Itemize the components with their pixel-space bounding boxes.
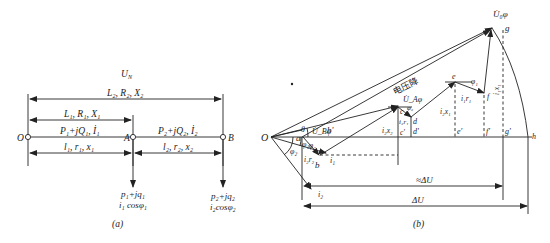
U0-label: U̇₀φ — [493, 9, 508, 19]
seg-i2r2-label: i₂r₂ — [304, 155, 315, 164]
point-d-prime-label: d' — [413, 127, 419, 136]
phi1-label-e: φ₁ — [471, 77, 478, 86]
node-B-label: B — [228, 133, 234, 143]
seg-i2x2-label: i₂x₂ — [382, 126, 393, 135]
load-A-power: p₁+jq₁ — [120, 189, 145, 199]
node-O — [25, 134, 30, 139]
segment-1-label: l₁, r₁, x₁ — [64, 142, 94, 152]
i2-label: i₂ — [318, 190, 323, 199]
flow-1-label: P₁+jQ₁, İ₁ — [59, 125, 100, 136]
load-B-current: i₂cosφ₂ — [210, 202, 236, 212]
load-B-power: p₂+jq₂ — [210, 191, 235, 201]
seg-i1x1-label: i₁x₁ — [492, 84, 501, 95]
approx-drop-label: ≈ΔU — [416, 175, 433, 185]
node-O-label: O — [17, 133, 24, 143]
node-A-label: A — [123, 133, 130, 143]
seg-i2r1-label: i₂r₁ — [399, 118, 409, 126]
theta-arc — [307, 128, 308, 137]
caption-b: (b) — [413, 219, 424, 230]
figure-a-labels: UN L₂, R₂, X₂ L₁, R₁, X₁ P₁+jQ₁, İ₁ P₂+j… — [17, 69, 236, 230]
UA-phasor — [271, 106, 398, 137]
seg-i1r1-label: i₁r₁ — [461, 94, 472, 103]
phi2-label-c: φ₂ — [407, 104, 414, 112]
vector-e-f — [455, 82, 484, 93]
vector-f-g — [484, 30, 491, 93]
stray-dot — [291, 83, 293, 85]
caption-a: (a) — [112, 219, 123, 230]
UA-label: U̇_Aφ — [403, 95, 423, 104]
voltage-drop-line — [302, 30, 490, 137]
point-f-label: f — [487, 92, 491, 101]
flow-2-label: P₂+jQ₂, İ₂ — [157, 125, 198, 136]
node-A — [130, 134, 135, 139]
point-g-label: g — [505, 23, 510, 33]
un-label: UN — [121, 69, 133, 80]
origin-O-label: O — [261, 132, 268, 143]
U0-phasor — [271, 28, 492, 137]
point-f-prime-label: f' — [486, 127, 490, 136]
point-h-label: h — [532, 132, 536, 141]
theta-label: θ — [301, 125, 305, 134]
i1-label: i₁ — [330, 156, 335, 165]
point-e-prime-label: e' — [457, 127, 463, 136]
phi2-label-O: φ₂ — [290, 147, 297, 156]
point-g-prime-label: g' — [505, 127, 511, 136]
node-B — [220, 134, 225, 139]
load-A-current: i₁ cosφ₁ — [119, 200, 147, 210]
span-1-label: L₁, R₁, X₁ — [63, 109, 100, 119]
point-a-label: a — [296, 133, 301, 143]
point-b-label: b — [315, 160, 320, 170]
point-b-prime-label: b' — [327, 125, 335, 135]
exact-drop-label: ΔU — [411, 195, 424, 205]
point-c-prime-label: c' — [400, 128, 405, 137]
phi2-label-a: φ₂ — [309, 141, 316, 150]
span-total-label: L₂, R₂, X₂ — [106, 88, 144, 98]
figure-canvas: UN L₂, R₂, X₂ L₁, R₁, X₁ P₁+jQ₁, İ₁ P₂+j… — [0, 0, 550, 243]
seg-i2x1-label: i₂x₁ — [440, 107, 451, 116]
segment-2-label: l₂, r₂, x₂ — [163, 142, 194, 152]
point-e-label: e — [452, 72, 456, 81]
arc-g-h — [492, 28, 528, 137]
point-d-label: d — [413, 117, 418, 126]
